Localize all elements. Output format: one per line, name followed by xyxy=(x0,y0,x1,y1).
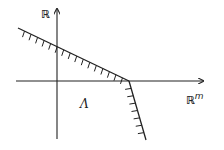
horizontal-axis-label-base: ℝ xyxy=(186,94,195,107)
hatch-mark xyxy=(134,118,140,119)
hatch-mark xyxy=(125,88,131,89)
horizontal-axis-label-sup: m xyxy=(195,91,204,101)
hatch-mark xyxy=(94,65,96,71)
hatch-mark xyxy=(127,96,133,97)
hatch-mark xyxy=(62,50,64,56)
hatch-mark xyxy=(138,133,144,134)
region-label: Λ xyxy=(80,98,89,110)
horizontal-axis-label: ℝm xyxy=(186,92,204,106)
hatch-mark xyxy=(29,34,31,40)
hatch-mark xyxy=(136,125,142,126)
diagram-canvas xyxy=(0,0,224,150)
hatch-mark xyxy=(68,53,70,59)
hatch-mark xyxy=(49,44,51,50)
hatch-mark xyxy=(81,59,83,65)
hatch-mark xyxy=(36,37,38,43)
shallow-boundary-line xyxy=(18,28,129,84)
hatch-mark xyxy=(75,56,77,62)
hatch-mark xyxy=(114,75,116,81)
hatch-mark xyxy=(107,72,109,78)
steep-boundary-line xyxy=(125,81,146,140)
hatch-mark xyxy=(88,62,90,68)
hatch-mark xyxy=(42,40,44,46)
vertical-axis-label: ℝ xyxy=(41,9,50,20)
hatch-mark xyxy=(23,31,25,37)
hatch-mark xyxy=(101,69,103,75)
hatch-mark xyxy=(129,103,135,104)
hatch-mark xyxy=(132,111,138,112)
